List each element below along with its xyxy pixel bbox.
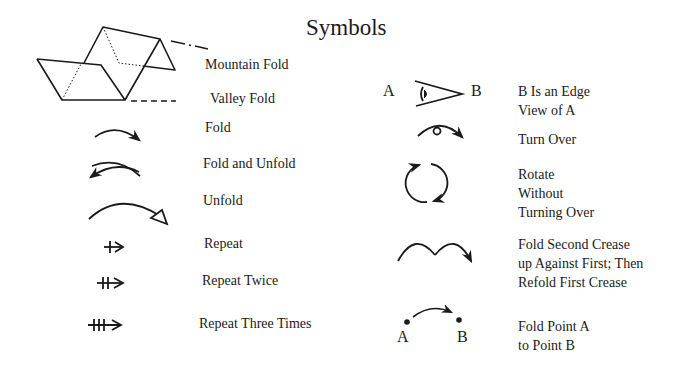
rotate-line-1: Rotate [518,165,594,184]
double-fold-arrow-icon [398,244,471,261]
rotate-description: Rotate Without Turning Over [518,165,594,222]
mountain-fold-label: Mountain Fold [205,55,289,74]
fold-second-crease-line-2: up Against First; Then [518,254,643,273]
edge-view-point-a: A [383,82,395,100]
fold-point-line-2: to Point B [518,336,590,355]
unfold-label: Unfold [203,191,243,210]
turn-over-icon [418,126,462,137]
turn-over-label: Turn Over [518,130,576,149]
repeat-twice-arrow-icon [97,277,123,289]
fold-point-description: Fold Point A to Point B [518,317,590,355]
fold-point-a-label: A [397,328,409,346]
edge-view-point-b: B [471,82,482,100]
fold-and-unfold-label: Fold and Unfold [203,154,296,173]
fold-second-crease-description: Fold Second Crease up Against First; The… [518,235,643,292]
fold-point-b-label: B [457,328,468,346]
repeat-three-times-arrow-icon [88,319,121,331]
fold-unfold-arrow-icon [91,163,140,177]
repeat-three-times-label: Repeat Three Times [199,314,312,333]
fold-label: Fold [205,118,231,137]
fold-point-line-1: Fold Point A [518,317,590,336]
edge-view-description: B Is an Edge View of A [518,82,590,120]
fold-second-crease-line-3: Refold First Crease [518,273,643,292]
fold-point-arrow-icon [405,308,461,324]
rotate-line-3: Turning Over [518,203,594,222]
rotate-line-2: Without [518,184,594,203]
repeat-twice-label: Repeat Twice [202,271,278,290]
edge-view-line-1: B Is an Edge [518,82,590,101]
fold-arrow-icon [95,130,139,140]
edge-view-icon [415,81,462,106]
fold-second-crease-line-1: Fold Second Crease [518,235,643,254]
rotate-icon [406,164,448,202]
unfold-arrow-icon [89,204,167,224]
repeat-arrow-icon [104,241,123,253]
folded-paper-diagram-icon [37,27,208,101]
valley-fold-label: Valley Fold [210,89,275,108]
repeat-label: Repeat [204,234,243,253]
edge-view-line-2: View of A [518,101,590,120]
